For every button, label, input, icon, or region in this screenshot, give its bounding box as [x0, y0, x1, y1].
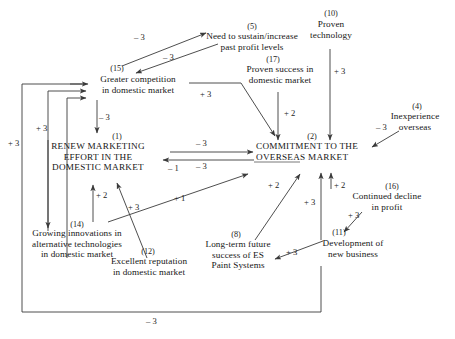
node-label-2: COMMITMENT TO THE OVERSEAS MARKET	[256, 141, 396, 162]
edge-weight-12-1: + 3	[128, 202, 139, 212]
edge-weight-14-15: + 3	[36, 123, 47, 133]
edge-weight-5-15: – 3	[163, 52, 174, 62]
node-ref-16: (16)	[372, 182, 412, 191]
edge-weight-16-2: + 2	[334, 180, 345, 190]
node-ref-17: (17)	[253, 55, 293, 64]
node-ref-2: (2)	[292, 132, 332, 141]
edge-weight-11-15: – 3	[146, 316, 157, 326]
node-label-10: Proven technology	[296, 19, 366, 40]
node-label-14: Growing innovations in alternative techn…	[15, 228, 139, 260]
node-ref-10: (10)	[311, 9, 351, 18]
edge-weight-11-8: + 3	[286, 247, 297, 257]
causal-loop-diagram: (5) (10) (17) (15) (4) (2) (1) (16) (14)…	[0, 0, 455, 339]
edge-weight-4-2: – 3	[376, 122, 387, 132]
edge-weight-11-2: + 3	[304, 197, 315, 207]
edge-weight-15-5: – 3	[134, 32, 145, 42]
node-label-16: Continued decline in profit	[337, 191, 437, 212]
edge-weight-12-15: + 3	[8, 138, 19, 148]
edge-weight-15-1: – 3	[99, 112, 110, 122]
edge-weight-17-2: + 2	[284, 108, 295, 118]
edge-weight-14-2: + 1	[174, 193, 185, 203]
node-ref-8: (8)	[216, 230, 256, 239]
edge-weight-10-2: + 3	[334, 66, 345, 76]
node-ref-4: (4)	[397, 102, 437, 111]
node-label-4: Inexperience overseas	[377, 111, 453, 132]
edge-weight-1-2: – 3	[196, 138, 207, 148]
edge-weight-8-2: + 2	[268, 180, 279, 190]
edge-weight-2-1-b: – 3	[196, 161, 207, 171]
node-label-17: Proven success in domestic market	[224, 64, 336, 85]
edge-weight-15-2: + 3	[200, 89, 211, 99]
node-label-11: Development of new business	[305, 238, 401, 259]
edge-weight-14-1: + 2	[96, 190, 107, 200]
node-ref-11: (11)	[319, 228, 359, 237]
edge-weight-16-11: + 3	[348, 210, 359, 220]
node-label-15: Greater competition in domestic market	[82, 74, 194, 95]
node-ref-15: (15)	[97, 64, 137, 73]
node-label-12: Excellent reputation in domestic market	[93, 256, 205, 277]
node-ref-1: (1)	[97, 132, 137, 141]
edge-weight-2-1-a: – 1	[168, 163, 179, 173]
node-label-1: RENEW MARKETING EFFORT IN THE DOMESTIC M…	[42, 141, 154, 173]
node-ref-5: (5)	[232, 22, 272, 31]
